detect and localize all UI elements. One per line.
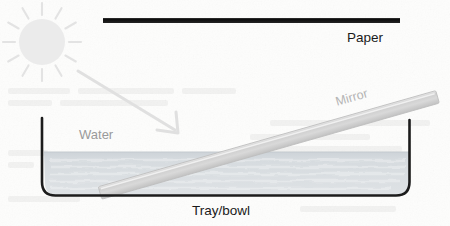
label-paper: Paper	[347, 31, 383, 45]
label-water: Water	[79, 128, 113, 141]
sun-disc	[19, 19, 65, 65]
label-tray-bowl: Tray/bowl	[192, 204, 250, 218]
diagram-canvas: Paper Water Mirror Tray/bowl	[0, 0, 450, 226]
paper-sheet	[103, 18, 400, 23]
